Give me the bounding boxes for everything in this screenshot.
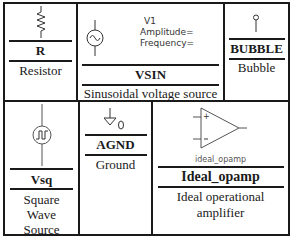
component-description: amplifier (153, 205, 288, 221)
component-name: R (5, 43, 76, 59)
rule (229, 38, 285, 40)
cell-agnd[interactable]: AGND Ground (80, 102, 151, 234)
rule (10, 188, 73, 190)
component-description: Bubble (225, 60, 288, 76)
part-label: ideal_opamp (153, 154, 288, 165)
component-description: Wave (5, 207, 78, 223)
cell-vsin[interactable]: V1 Amplitude= Frequency= VSIN Sinusoidal… (78, 4, 223, 100)
cell-bubble[interactable]: BUBBLE Bubble (225, 4, 288, 100)
component-name: Ideal_opamp (153, 169, 288, 185)
component-name: BUBBLE (225, 41, 288, 57)
rule (10, 168, 73, 170)
component-description: Sinusoidal voltage source (78, 86, 223, 102)
component-name: Vsq (5, 172, 78, 188)
svg-text:+: + (203, 112, 210, 121)
component-description: Ground (80, 157, 151, 173)
component-description: Resistor (5, 63, 76, 79)
cell-resistor[interactable]: R Resistor (5, 4, 76, 100)
rule (9, 40, 72, 42)
opamp-icon: + (189, 106, 247, 150)
ground-icon (104, 108, 126, 130)
bubble-icon (252, 14, 260, 32)
sine-source-icon (86, 20, 104, 56)
amplitude-label: Amplitude= (140, 27, 194, 38)
component-name: AGND (80, 137, 151, 153)
square-wave-source-icon (32, 104, 52, 166)
component-description: Source (5, 222, 78, 238)
rule (85, 154, 147, 156)
rule (85, 134, 147, 136)
component-name: VSIN (78, 67, 223, 83)
rule (9, 60, 72, 62)
rule (82, 64, 219, 66)
cell-vsq[interactable]: Vsq Square Wave Source (5, 102, 78, 234)
rule (158, 166, 284, 168)
frequency-label: Frequency= (140, 38, 194, 49)
component-description: Ideal operational (153, 189, 288, 205)
component-description: Square (5, 192, 78, 208)
resistor-icon (35, 6, 47, 38)
ref-label: V1 (144, 16, 156, 27)
rule (158, 186, 284, 188)
cell-ideal-opamp[interactable]: + ideal_opamp Ideal_opamp Ideal operatio… (153, 102, 288, 234)
